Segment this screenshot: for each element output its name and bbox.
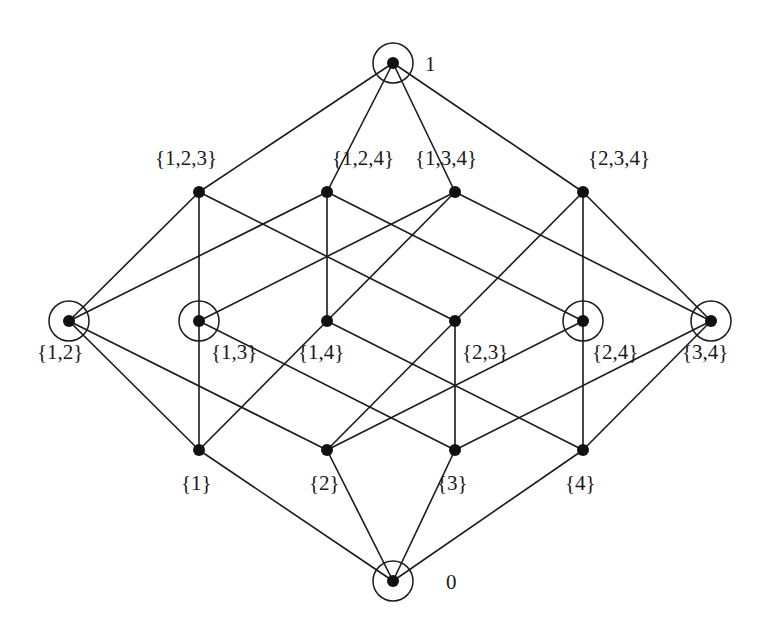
edge-top-234	[393, 63, 583, 192]
label-2: {2}	[309, 471, 340, 495]
edge-1-bot	[199, 450, 393, 581]
node-34	[705, 315, 717, 327]
node-24	[577, 315, 589, 327]
node-1	[193, 444, 205, 456]
edge-134-14	[327, 192, 455, 321]
edge-234-23	[455, 192, 583, 321]
label-23: {2,3}	[462, 340, 508, 364]
label-124: {1,2,4}	[332, 146, 394, 170]
node-14	[321, 315, 333, 327]
edge-234-34	[583, 192, 711, 321]
edge-top-134	[393, 63, 455, 192]
label-3: {3}	[437, 471, 468, 495]
label-134: {1,3,4}	[415, 146, 477, 170]
label-24: {2,4}	[592, 340, 638, 364]
node-top	[387, 57, 399, 69]
edge-12-1	[69, 321, 199, 450]
label-1: {1}	[181, 471, 212, 495]
edge-top-123	[199, 63, 393, 192]
label-12: {1,2}	[37, 340, 83, 364]
rings-layer	[49, 43, 731, 601]
edge-124-24	[327, 192, 583, 321]
label-4: {4}	[565, 471, 596, 495]
node-134	[449, 186, 461, 198]
node-2	[321, 444, 333, 456]
label-234: {2,3,4}	[588, 146, 650, 170]
labels-layer: 1{1,2,3}{1,2,4}{1,3,4}{2,3,4}{1,2}{1,3}{…	[37, 52, 728, 594]
node-12	[63, 315, 75, 327]
node-13	[193, 315, 205, 327]
edge-23-2	[327, 321, 455, 450]
edges-layer	[69, 63, 711, 581]
label-34: {3,4}	[682, 340, 728, 364]
edge-2-bot	[327, 450, 393, 581]
node-124	[321, 186, 333, 198]
label-top: 1	[425, 52, 436, 76]
node-4	[577, 444, 589, 456]
edge-3-bot	[393, 450, 455, 581]
node-bot	[387, 575, 399, 587]
node-23	[449, 315, 461, 327]
edge-123-12	[69, 192, 199, 321]
node-234	[577, 186, 589, 198]
label-14: {1,4}	[298, 340, 344, 364]
edge-top-124	[327, 63, 393, 192]
label-13: {1,3}	[211, 340, 257, 364]
hasse-diagram: 1{1,2,3}{1,2,4}{1,3,4}{2,3,4}{1,2}{1,3}{…	[0, 0, 776, 637]
edge-4-bot	[393, 450, 583, 581]
label-bot: 0	[446, 570, 457, 594]
node-3	[449, 444, 461, 456]
nodes-layer	[63, 57, 717, 587]
label-123: {1,2,3}	[155, 146, 217, 170]
node-123	[193, 186, 205, 198]
